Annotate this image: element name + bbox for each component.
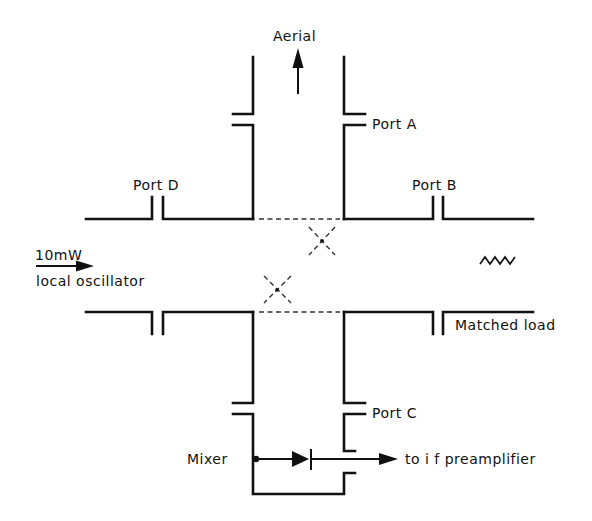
port-d-label: Port D [133,177,179,193]
right-arrow-icon [76,261,94,272]
port-b-flange-left [344,197,433,219]
right-arrow-icon [379,453,398,465]
left-wall-mid [233,125,253,219]
mixer: Mixer to i f preamplifier [187,449,536,470]
port-a-flange-bottom [344,125,365,219]
left-wall-top [233,57,253,114]
up-arrow-icon [293,48,304,68]
main-waveguide-lower: Port C [233,312,417,494]
port-b-label: Port B [412,177,457,193]
port-d-flange-left [86,197,152,219]
coupler-diagram: Aerial Port A Port D Port B [0,0,592,521]
aux-waveguide-top: Port D Port B [86,177,533,219]
resistor-icon [480,257,515,264]
main-waveguide-upper: Port A [233,57,417,219]
diode-icon [292,451,309,467]
port-c-label: Port C [372,405,417,421]
coupling-region [259,219,340,312]
lower-left-flange-left [86,312,152,334]
lower-right-flange-left [344,312,433,334]
mixer-label: Mixer [187,451,228,467]
port-c-flange-top [344,312,365,403]
aerial-label: Aerial [273,28,316,44]
coupling-hole-icon [264,276,291,303]
matched-load-label: Matched load [455,317,556,333]
left-wall-lower [233,312,253,403]
lower-left-flange-right [163,312,253,334]
port-a-label: Port A [372,116,417,132]
coupling-hole-icon [309,227,335,255]
matched-load: Matched load [455,257,556,333]
port-b-flange-right [443,197,533,219]
lo-power-label: 10mW [35,247,82,263]
port-c-flange-bottom [344,414,365,451]
port-d-flange-right [163,197,253,219]
if-output-label: to i f preamplifier [405,451,536,467]
local-oscillator-input: 10mW local oscillator [35,247,145,289]
lo-name-label: local oscillator [36,273,145,289]
port-a-flange-top [344,57,365,114]
aerial-output: Aerial [273,28,316,94]
